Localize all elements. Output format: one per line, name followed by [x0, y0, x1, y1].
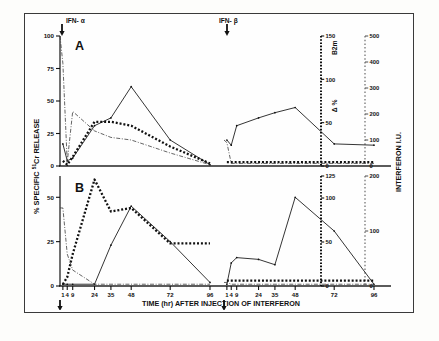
data-point [373, 144, 375, 146]
data-point [333, 230, 335, 232]
x-tick-label: 72 [167, 292, 174, 298]
y-tick-label: 75 [47, 65, 54, 72]
data-point [72, 283, 74, 285]
y-tick-label: 100 [44, 32, 55, 39]
x-tick-label: 24 [255, 292, 262, 298]
x-tick-label: 96 [207, 292, 214, 298]
series-dash-dot [224, 282, 374, 284]
data-point [169, 241, 171, 243]
b2m-axis-title: B2m [331, 40, 338, 55]
data-point [294, 107, 296, 109]
x-tick-label: 48 [292, 292, 299, 298]
ifn-axis-b-tick-label: 200 [370, 173, 380, 179]
y-axis-title: % SPECIFIC 51Cr RELEASE [32, 119, 41, 214]
data-point [226, 139, 228, 141]
x-tick-label: 72 [331, 292, 338, 298]
interferon-axis-title: INTERFERON I.U. [394, 132, 403, 192]
ifn-axis-a-tick-label: 0 [370, 163, 373, 169]
b2m-axis-a-tick-label: 50 [326, 120, 332, 126]
ifn-beta-marker-head [224, 31, 229, 36]
x-tick-label: 96 [371, 292, 378, 298]
data-point [130, 205, 132, 207]
x-tick-label: 35 [108, 292, 115, 298]
data-point [62, 143, 64, 145]
data-point [110, 244, 112, 246]
x-tick-label: 48 [128, 292, 135, 298]
y-tick-label: 50 [47, 97, 54, 104]
data-point [94, 125, 96, 127]
data-point [258, 259, 260, 261]
panel-b-letter: B [75, 181, 84, 195]
ifn-axis-a-tick-label: 200 [370, 111, 380, 117]
ifn-axis-b-tick-label: 100 [370, 228, 380, 234]
data-point [66, 283, 68, 285]
ifn-axis-a-tick-label: 100 [370, 137, 380, 143]
y-tick-label: 25 [47, 238, 54, 245]
x-tick-label: 4 [230, 292, 234, 298]
data-point [230, 144, 232, 146]
injection-arrow-head [57, 306, 62, 310]
figure-plate: 0255075100025501492435487296149243548729… [24, 13, 414, 313]
data-point [274, 264, 276, 266]
data-point [333, 143, 335, 145]
series-solid [227, 108, 374, 146]
data-point [294, 196, 296, 198]
x-tick-label: 35 [272, 292, 279, 298]
data-point [236, 125, 238, 127]
b2m-axis-a-tick-label: 100 [326, 77, 336, 83]
x-tick-label: 4 [66, 292, 70, 298]
x-tick-label: 24 [91, 292, 98, 298]
data-point [130, 86, 132, 88]
b2m-axis-b-tick-label: 100 [326, 195, 336, 201]
svg-text:% SPECIFIC 51Cr RELEASE: % SPECIFIC 51Cr RELEASE [32, 119, 41, 214]
data-point [274, 112, 276, 114]
x-tick-label: 9 [71, 292, 75, 298]
data-point [236, 257, 238, 259]
y-tick-label: 25 [47, 130, 54, 137]
ifn-beta-marker-label: IFN- β [219, 17, 238, 25]
data-point [230, 262, 232, 264]
x-axis-title: TIME (hr) AFTER INJECTION OF INTERFERON [142, 299, 300, 308]
data-point [258, 117, 260, 119]
y-tick-label: 0 [51, 162, 55, 169]
series-dotted-thick [63, 180, 210, 285]
series-solid [63, 206, 210, 284]
b2m-axis-a-tick-label: 150 [326, 33, 336, 39]
series-dash-dot [60, 36, 210, 165]
data-point [209, 282, 211, 284]
series-solid [227, 197, 374, 284]
ifn-axis-a-tick-label: 300 [370, 85, 380, 91]
ifn-alpha-marker-head [59, 31, 64, 36]
y-tick-label: 50 [47, 194, 54, 201]
figure-root: 0255075100025501492435487296149243548729… [0, 0, 439, 341]
panel-a-letter: A [75, 39, 84, 53]
y-tick-label: 0 [51, 282, 55, 289]
b2m-axis-b-tick-label: 125 [326, 173, 336, 179]
b2m-axis-b-tick-label: 50 [326, 239, 332, 245]
ifn-axis-a-tick-label: 500 [370, 33, 380, 39]
chart-canvas: 0255075100025501492435487296149243548729… [25, 14, 411, 310]
x-tick-label: 9 [235, 292, 239, 298]
data-point [169, 139, 171, 141]
data-point [226, 283, 228, 285]
b2m-axis-a-tick-label: 0 [326, 163, 329, 169]
series-dash-dot [224, 140, 374, 163]
ifn-axis-a-tick-label: 400 [370, 59, 380, 65]
ifn-alpha-marker-label: IFN- α [66, 17, 85, 24]
delta-percent-title: Δ % [331, 99, 338, 112]
data-point [110, 117, 112, 119]
